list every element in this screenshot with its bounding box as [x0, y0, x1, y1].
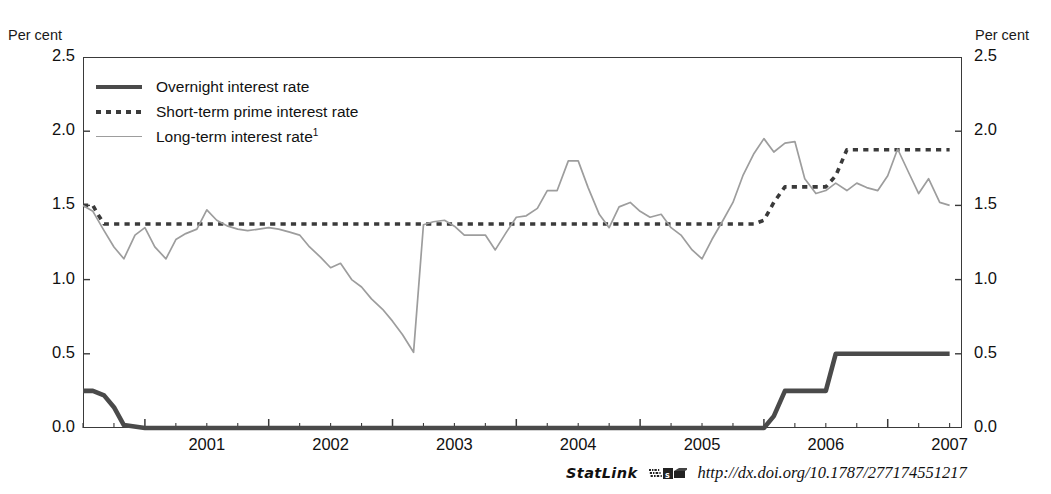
- x-tick-label: 2004: [543, 435, 613, 454]
- legend-label-long-term: Long-term interest rate1: [156, 127, 318, 146]
- y-axis-unit-left: Per cent: [8, 27, 62, 43]
- figure-page: Per cent Per cent Overnight interest rat…: [0, 0, 1051, 494]
- statlink-footer: StatLink s http://dx.doi.org/10.1787/277…: [566, 463, 967, 483]
- x-tick-label: 2007: [915, 435, 985, 454]
- y-tick-label-right: 1.0: [974, 269, 1020, 288]
- legend-item-long-term[interactable]: Long-term interest rate1: [96, 124, 426, 149]
- chart-legend: Overnight interest rate Short-term prime…: [96, 74, 426, 149]
- legend-line-short-term-prime-icon: [96, 105, 142, 119]
- y-tick-label-left: 1.5: [31, 194, 75, 213]
- y-tick-label-right: 0.5: [974, 343, 1020, 362]
- x-tick-label: 2005: [667, 435, 737, 454]
- y-tick-label-right: 1.5: [974, 194, 1020, 213]
- svg-text:s: s: [665, 470, 670, 479]
- x-tick-label: 2006: [791, 435, 861, 454]
- statlink-word: StatLink: [566, 465, 637, 481]
- x-tick-label: 2003: [419, 435, 489, 454]
- y-tick-label-right: 0.0: [974, 417, 1020, 436]
- y-tick-label-left: 0.0: [31, 417, 75, 436]
- y-axis-unit-right: Per cent: [975, 27, 1029, 43]
- x-tick-label: 2001: [172, 435, 242, 454]
- legend-label-short-term-prime: Short-term prime interest rate: [156, 103, 358, 121]
- legend-item-short-term-prime[interactable]: Short-term prime interest rate: [96, 99, 426, 124]
- x-tick-label: 2002: [296, 435, 366, 454]
- legend-label-long-term-text: Long-term interest rate: [156, 128, 313, 145]
- y-tick-label-right: 2.5: [974, 46, 1020, 65]
- legend-line-long-term-icon: [96, 130, 142, 144]
- y-tick-label-left: 0.5: [31, 343, 75, 362]
- statlink-barcode-icon: s: [649, 466, 687, 481]
- y-tick-label-left: 2.0: [31, 120, 75, 139]
- legend-item-overnight[interactable]: Overnight interest rate: [96, 74, 426, 99]
- figure-title-clipped: [0, 0, 1051, 8]
- legend-line-overnight-icon: [96, 80, 142, 94]
- statlink-url[interactable]: http://dx.doi.org/10.1787/277174551217: [697, 463, 966, 483]
- y-tick-label-left: 2.5: [31, 46, 75, 65]
- y-tick-label-left: 1.0: [31, 269, 75, 288]
- legend-label-overnight: Overnight interest rate: [156, 78, 309, 96]
- legend-footnote-marker: 1: [313, 127, 319, 138]
- y-tick-label-right: 2.0: [974, 120, 1020, 139]
